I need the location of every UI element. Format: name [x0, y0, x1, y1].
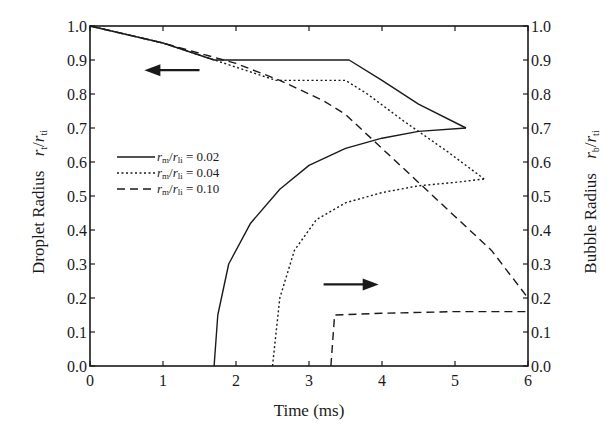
y-right-title-text: Bubble Radius: [581, 173, 600, 274]
y-right-tick-label: 0.3: [531, 256, 551, 273]
y-right-tick-label: 1.0: [531, 18, 551, 35]
axis-ticks: [90, 26, 528, 366]
svg-text:Bubble Radius rb/rti: Bubble Radius rb/rti: [581, 130, 601, 274]
y-left-tick-label: 1.0: [67, 18, 87, 35]
bubble-curve-dashed: [331, 312, 528, 366]
x-axis-title: Time (ms): [274, 401, 345, 420]
y-right-tick-label: 0.8: [531, 86, 551, 103]
y-right-tick-label: 0.1: [531, 324, 551, 341]
y-left-tick-label: 0.5: [67, 188, 87, 205]
svg-text:rm/rli = 0.04: rm/rli = 0.04: [157, 165, 220, 181]
y-left-tick-label: 0.3: [67, 256, 87, 273]
y-right-tick-label: 0.9: [531, 52, 551, 69]
bubble-curve-solid: [214, 128, 466, 366]
x-tick-label: 3: [305, 372, 313, 389]
axis-tick-labels: 01234560.00.10.20.30.40.50.60.70.80.91.0…: [67, 18, 551, 389]
droplet-curve-solid: [90, 26, 466, 128]
y-left-title-text: Droplet Radius: [29, 171, 48, 274]
legend-item-0.10: rm/rli = 0.10: [117, 181, 219, 197]
y-right-tick-label: 0.4: [531, 222, 551, 239]
legend: rm/rli = 0.02 rm/rli = 0.04 rm/rli = 0.1…: [117, 149, 220, 197]
y-left-tick-label: 0.7: [67, 120, 87, 137]
y-left-tick-label: 0.1: [67, 324, 87, 341]
axes-frame: [90, 26, 528, 366]
y-left-axis-title: Droplet Radius rt/rti: [29, 130, 49, 274]
y-left-tick-label: 0.2: [67, 290, 87, 307]
y-left-tick-label: 0.6: [67, 154, 87, 171]
y-right-tick-label: 0.2: [531, 290, 551, 307]
x-tick-label: 1: [159, 372, 167, 389]
plot-area-border: [90, 26, 528, 366]
y-left-tick-label: 0.9: [67, 52, 87, 69]
x-tick-label: 2: [232, 372, 240, 389]
y-right-axis-title: Bubble Radius rb/rti: [581, 130, 601, 274]
x-tick-label: 0: [86, 372, 94, 389]
arrow-right-icon: [324, 278, 379, 290]
y-left-tick-label: 0.0: [67, 358, 87, 375]
y-left-tick-label: 0.4: [67, 222, 87, 239]
y-left-tick-label: 0.8: [67, 86, 87, 103]
y-right-tick-label: 0.5: [531, 188, 551, 205]
chart-canvas: 01234560.00.10.20.30.40.50.60.70.80.91.0…: [0, 0, 612, 433]
legend-item-0.02: rm/rli = 0.02: [117, 149, 219, 165]
y-right-tick-label: 0.7: [531, 120, 551, 137]
y-right-tick-label: 0.6: [531, 154, 551, 171]
x-tick-label: 4: [378, 372, 386, 389]
svg-text:Droplet Radius rt/rti: Droplet Radius rt/rti: [29, 130, 49, 274]
svg-text:rm/rli = 0.02: rm/rli = 0.02: [157, 149, 219, 165]
droplet-curve-dotted: [90, 26, 484, 179]
bubble-curve-dotted: [273, 179, 485, 366]
arrow-left-icon: [144, 64, 199, 76]
y-right-tick-label: 0.0: [531, 358, 551, 375]
svg-text:rm/rli = 0.10: rm/rli = 0.10: [157, 181, 219, 197]
x-tick-label: 5: [451, 372, 459, 389]
plot-lines: [90, 26, 528, 366]
legend-item-0.04: rm/rli = 0.04: [117, 165, 220, 181]
